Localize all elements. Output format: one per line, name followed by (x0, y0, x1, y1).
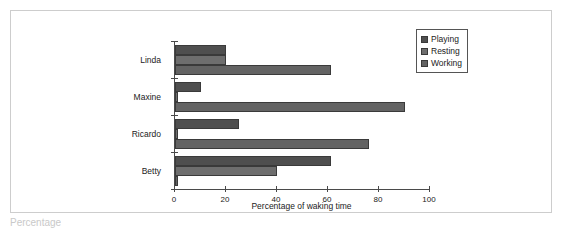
legend-label-playing: Playing (431, 34, 459, 44)
category-label: Betty (142, 166, 161, 176)
legend-swatch-resting (421, 48, 428, 55)
x-axis-tick (429, 186, 430, 192)
x-axis-title: Percentage of waking time (174, 201, 429, 211)
legend-item-working[interactable]: Working (421, 57, 462, 69)
legend-item-resting[interactable]: Resting (421, 45, 462, 57)
legend-swatch-playing (421, 36, 428, 43)
x-axis-line (174, 189, 430, 190)
category-label: Maxine (134, 92, 161, 102)
figure-frame: 020406080100 LindaMaxineRicardoBetty Per… (10, 10, 552, 213)
legend-label-working: Working (431, 58, 462, 68)
figure-caption: Percentage (10, 217, 61, 230)
category-label: Linda (140, 55, 161, 65)
category-label: Ricardo (132, 129, 161, 139)
legend-swatch-working (421, 60, 428, 67)
legend-item-playing[interactable]: Playing (421, 33, 462, 45)
category-labels: LindaMaxineRicardoBetty (174, 41, 429, 189)
legend-label-resting: Resting (431, 46, 460, 56)
chart-legend[interactable]: Playing Resting Working (416, 29, 468, 73)
